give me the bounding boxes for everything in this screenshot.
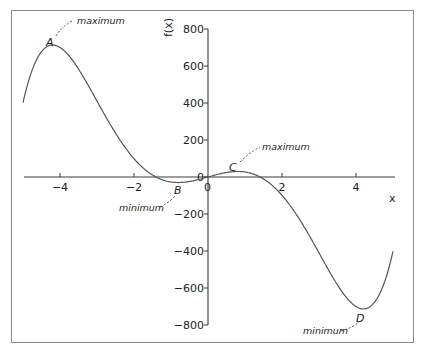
y-tick-label: 800 <box>183 23 204 36</box>
point-label-c: C <box>229 161 237 174</box>
x-tick-label: −2 <box>126 181 142 194</box>
y-tick-label: −400 <box>174 245 204 258</box>
y-tick-label: −600 <box>174 282 204 295</box>
annotation-minimum-d: minimum <box>303 325 348 336</box>
x-tick-label: 0 <box>204 181 211 194</box>
annotation-leader-a <box>56 20 74 36</box>
x-tick-label: 4 <box>353 181 360 194</box>
y-tick-label: 600 <box>183 60 204 73</box>
function-plot: −4−2024 8006004002000−200−400−600−800 x … <box>0 0 427 355</box>
x-axis-ticks: −4−2024 <box>52 173 360 194</box>
y-tick-label: 200 <box>183 134 204 147</box>
y-tick-label: 400 <box>183 97 204 110</box>
y-tick-label: −200 <box>174 208 204 221</box>
x-tick-label: −4 <box>52 181 68 194</box>
point-label-b: B <box>174 184 182 197</box>
annotation-leader-c <box>240 147 260 162</box>
y-tick-label: −800 <box>174 319 204 332</box>
y-axis-label: f(x) <box>162 18 175 37</box>
point-label-a: A <box>45 36 54 49</box>
y-tick-label: 0 <box>197 171 204 184</box>
x-axis-label: x <box>389 192 396 205</box>
annotation-maximum-c: maximum <box>262 141 310 152</box>
annotation-maximum-a: maximum <box>77 15 125 26</box>
annotation-minimum-b: minimum <box>119 202 164 213</box>
